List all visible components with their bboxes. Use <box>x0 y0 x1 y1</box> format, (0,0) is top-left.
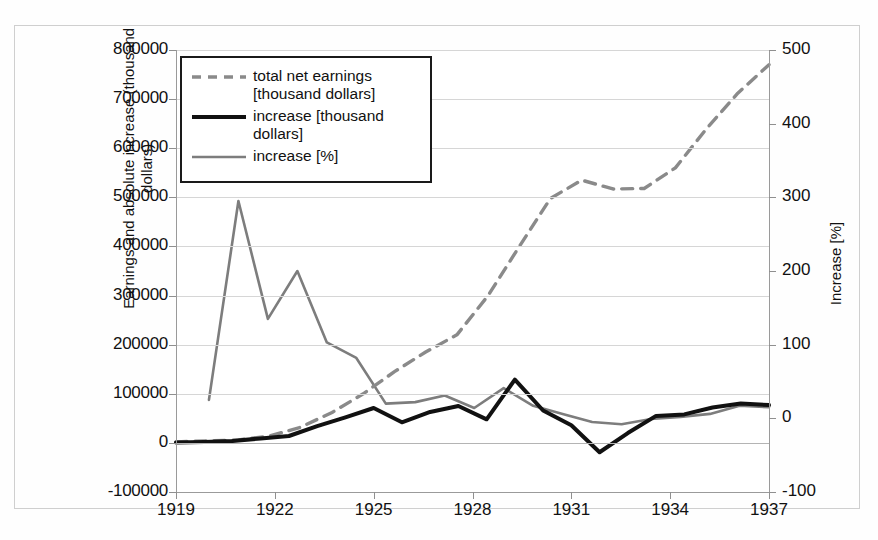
solid-gray-line-swatch <box>190 149 248 166</box>
left-axis-tick-label: 100000 <box>48 383 168 403</box>
gridline <box>176 50 770 51</box>
legend: total net earnings [thousand dollars] in… <box>180 56 432 183</box>
right-axis-title-text: Increase [%] <box>827 222 844 305</box>
x-axis-tick <box>374 492 375 499</box>
x-axis-tick-label: 1937 <box>734 500 804 520</box>
right-axis-tick-label: 400 <box>782 113 852 133</box>
left-axis-tick <box>169 394 176 395</box>
legend-label-increase-absolute: increase [thousand dollars] <box>253 107 424 143</box>
left-axis-tick <box>169 443 176 444</box>
x-axis-tick <box>571 492 572 499</box>
series-increase-percent <box>209 201 769 424</box>
left-axis-tick <box>169 197 176 198</box>
x-axis-tick-label: 1931 <box>536 500 606 520</box>
left-axis-title-text: Earnings and absolute increase (thousand… <box>120 28 155 309</box>
x-axis-tick-label: 1928 <box>438 500 508 520</box>
gridline <box>176 296 770 297</box>
left-axis-tick <box>169 148 176 149</box>
right-axis-tick-label: 500 <box>782 39 852 59</box>
x-axis-tick <box>769 492 770 499</box>
figure: -100000010000020000030000040000050000060… <box>0 0 878 540</box>
x-axis-tick <box>473 492 474 499</box>
legend-label-total-net-earnings: total net earnings [thousand dollars] <box>253 67 424 103</box>
legend-item-increase-percent: increase [%] <box>190 147 424 166</box>
left-axis-tick <box>169 345 176 346</box>
left-axis-tick-label: 200000 <box>48 334 168 354</box>
legend-item-increase-absolute: increase [thousand dollars] <box>190 107 424 143</box>
left-axis-tick <box>169 296 176 297</box>
x-axis-tick-label: 1925 <box>339 500 409 520</box>
x-axis-tick <box>176 492 177 499</box>
gridline <box>176 394 770 395</box>
x-axis-tick <box>275 492 276 499</box>
right-axis-tick <box>769 418 776 419</box>
gridline <box>176 443 770 444</box>
left-axis-line <box>176 50 177 492</box>
right-axis-tick <box>769 492 776 493</box>
right-axis-title: Increase [%] <box>827 174 844 354</box>
left-axis-tick <box>169 99 176 100</box>
x-axis-tick-label: 1922 <box>240 500 310 520</box>
x-axis-tick <box>670 492 671 499</box>
left-axis-tick <box>169 492 176 493</box>
left-axis-title: Earnings and absolute increase (thousand… <box>120 8 157 328</box>
left-axis-tick <box>169 50 176 51</box>
right-axis-tick <box>769 345 776 346</box>
gridline <box>176 197 770 198</box>
gridline <box>176 345 770 346</box>
solid-black-line-swatch <box>190 109 248 126</box>
legend-item-total-net-earnings: total net earnings [thousand dollars] <box>190 67 424 103</box>
dashed-gray-line-swatch <box>190 69 248 86</box>
right-axis-tick-label: 0 <box>782 407 852 427</box>
series-increase-absolute <box>176 380 769 453</box>
legend-label-increase-percent: increase [%] <box>253 147 338 165</box>
x-axis-tick-label: 1934 <box>635 500 705 520</box>
right-axis-tick <box>769 197 776 198</box>
left-axis-tick-label: 0 <box>48 432 168 452</box>
left-axis-tick <box>169 246 176 247</box>
right-axis-tick <box>769 271 776 272</box>
left-axis-tick-label: -100000 <box>48 481 168 501</box>
gridline <box>176 246 770 247</box>
right-axis-tick <box>769 124 776 125</box>
right-axis-tick <box>769 50 776 51</box>
x-axis-tick-label: 1919 <box>141 500 211 520</box>
right-axis-tick-label: -100 <box>782 481 852 501</box>
